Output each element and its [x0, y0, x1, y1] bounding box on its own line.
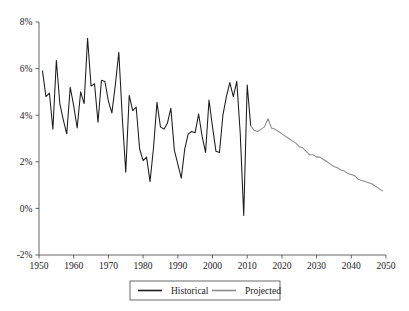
chart-legend: HistoricalProjected [130, 281, 281, 300]
x-tick-label: 2050 [377, 261, 396, 271]
y-tick-label: 4% [20, 111, 33, 121]
x-tick-label: 1970 [99, 261, 118, 271]
x-tick-label: 1980 [134, 261, 153, 271]
x-tick-label: 1950 [30, 261, 49, 271]
x-tick-label: 1960 [64, 261, 83, 271]
series-line-projected [251, 119, 383, 191]
y-axis: -2%0%2%4%6%8% [17, 17, 39, 260]
y-tick-label: 8% [20, 17, 33, 27]
x-tick-label: 1990 [168, 261, 187, 271]
y-tick-label: 0% [20, 204, 33, 214]
x-axis: 1950196019701980199020002010202020302040… [30, 255, 396, 271]
x-tick-label: 2020 [272, 261, 291, 271]
y-tick-label: -2% [17, 250, 33, 260]
y-tick-label: 6% [20, 64, 33, 74]
legend-label-projected[interactable]: Projected [245, 286, 281, 296]
line-chart: -2%0%2%4%6%8% 19501960197019801990200020… [0, 0, 409, 311]
x-tick-label: 2040 [342, 261, 361, 271]
series-line-historical [42, 38, 250, 215]
x-tick-label: 2000 [203, 261, 222, 271]
chart-container: -2%0%2%4%6%8% 19501960197019801990200020… [0, 0, 409, 311]
x-tick-label: 2010 [238, 261, 257, 271]
legend-label-historical[interactable]: Historical [171, 286, 209, 296]
x-tick-label: 2030 [307, 261, 326, 271]
data-series-group [42, 38, 382, 215]
y-tick-label: 2% [20, 157, 33, 167]
